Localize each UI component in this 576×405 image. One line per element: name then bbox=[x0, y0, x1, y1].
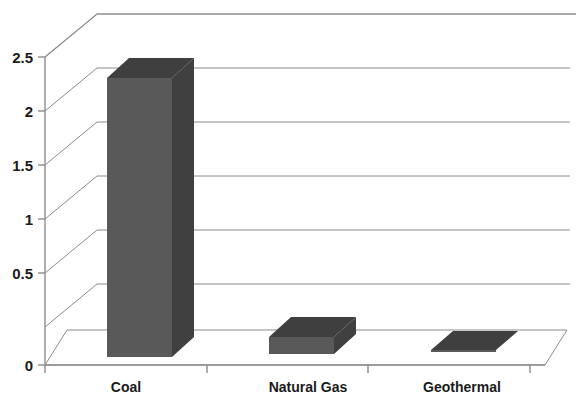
x-axis bbox=[45, 365, 545, 373]
bar-natural-gas[interactable] bbox=[269, 317, 356, 354]
bar-coal-side bbox=[172, 58, 194, 357]
y-label-2.5: 2.5 bbox=[12, 49, 33, 66]
bar-coal-front bbox=[107, 78, 172, 357]
y-axis-labels: 2.5 2 1.5 1 0.5 0 bbox=[12, 49, 33, 374]
bar-geothermal-top bbox=[431, 331, 518, 350]
bar-natural-gas-front bbox=[269, 337, 334, 354]
y-label-0.5: 0.5 bbox=[12, 265, 33, 282]
x-label-geothermal: Geothermal bbox=[423, 379, 501, 395]
gridline-2.5 bbox=[45, 14, 576, 57]
y-label-1: 1 bbox=[25, 211, 33, 228]
y-label-1.5: 1.5 bbox=[12, 157, 33, 174]
y-axis bbox=[38, 57, 45, 365]
back-wall-top-edge bbox=[45, 14, 576, 57]
bar-chart: 2.5 2 1.5 1 0.5 0 Coal Natural Gas Geoth… bbox=[0, 0, 576, 405]
bar-geothermal[interactable] bbox=[431, 331, 518, 352]
chart-walls bbox=[45, 14, 576, 57]
y-label-0: 0 bbox=[25, 357, 33, 374]
x-axis-labels: Coal Natural Gas Geothermal bbox=[111, 379, 501, 395]
chart-canvas: 2.5 2 1.5 1 0.5 0 Coal Natural Gas Geoth… bbox=[0, 0, 576, 405]
x-label-coal: Coal bbox=[111, 379, 141, 395]
bar-coal[interactable] bbox=[107, 58, 194, 357]
x-label-natural-gas: Natural Gas bbox=[269, 379, 348, 395]
bar-geothermal-front bbox=[431, 350, 496, 352]
y-label-2: 2 bbox=[25, 103, 33, 120]
